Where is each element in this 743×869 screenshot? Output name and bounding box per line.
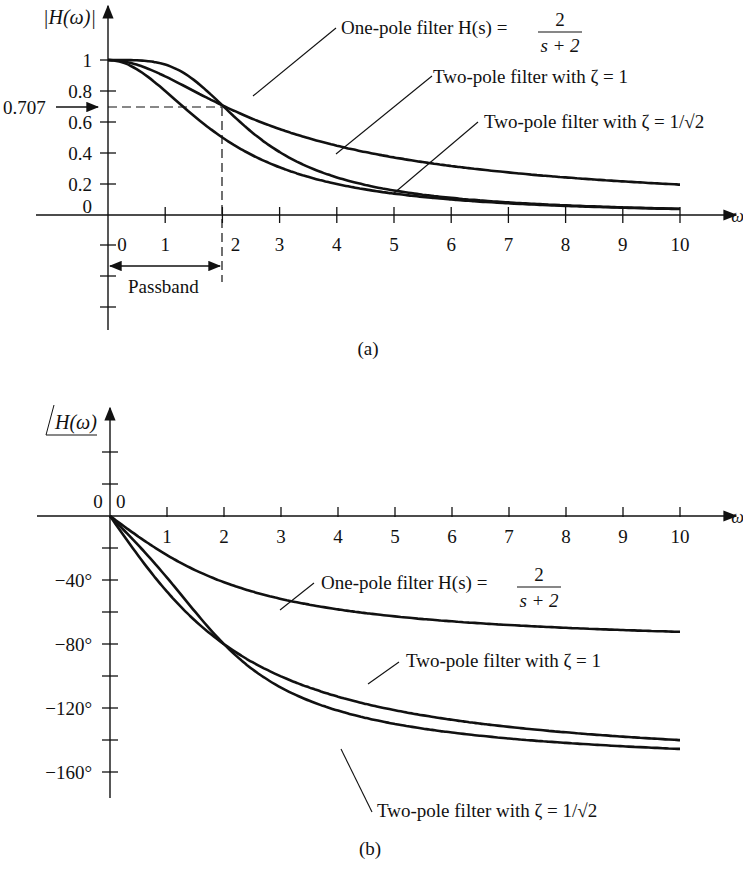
x-tick-label: 4 bbox=[333, 526, 343, 547]
y-tick-labels-a: 00.20.40.60.81 bbox=[68, 50, 92, 217]
y-tick-label: −120° bbox=[45, 698, 92, 719]
y-axis-label-a: |H(ω)| bbox=[43, 6, 96, 29]
series-label-a-3: Two-pole filter with ζ = 1/√2 bbox=[484, 111, 704, 132]
x-tick-label: 4 bbox=[332, 234, 342, 255]
x-tick-label: 1 bbox=[160, 234, 170, 255]
x-tick-label: 3 bbox=[275, 234, 285, 255]
cutoff-marker: 0.707 bbox=[3, 97, 222, 282]
x-axis-label-b: ω bbox=[731, 507, 743, 527]
x-axis-label-a: ω bbox=[731, 206, 743, 226]
x-tick-label: 3 bbox=[276, 526, 286, 547]
x-tick-labels-b: 012345678910 bbox=[93, 491, 689, 547]
y-tick-label: −80° bbox=[55, 634, 92, 655]
y-tick-label: 0.2 bbox=[68, 174, 92, 195]
y-tick-label: −160° bbox=[45, 762, 92, 783]
y-tick-label: 0.4 bbox=[68, 143, 92, 164]
svg-text:One-pole filter H(s) =: One-pole filter H(s) = bbox=[341, 17, 507, 39]
y-tick-label: 1 bbox=[83, 50, 93, 71]
x-tick-label: 6 bbox=[447, 526, 457, 547]
x-tick-label: 1 bbox=[162, 526, 172, 547]
x-tick-label: 0 bbox=[117, 234, 127, 255]
y-axis-label-b: H(ω) bbox=[46, 405, 97, 435]
y-tick-label: −40° bbox=[55, 570, 92, 591]
passband-annotation: Passband bbox=[110, 266, 220, 297]
series-label-a-1: One-pole filter H(s) = bbox=[341, 17, 507, 39]
cutoff-value-label: 0.707 bbox=[3, 97, 46, 118]
series-label-b-1: One-pole filter H(s) = bbox=[321, 572, 487, 594]
magnitude-chart: 012345678910 00.20.40.60.81 |H(ω)| ω 0.7… bbox=[0, 0, 743, 869]
series-label-a-2: Two-pole filter with ζ = 1 bbox=[433, 66, 628, 87]
x-tick-label: 7 bbox=[504, 526, 514, 547]
frac-num-b: 2 bbox=[534, 564, 544, 585]
curve-3 bbox=[110, 516, 680, 749]
x-tick-labels-a: 012345678910 bbox=[117, 234, 689, 255]
frac-den-b: s + 2 bbox=[519, 590, 559, 611]
chart-b-axes bbox=[37, 408, 736, 798]
legend-a: One-pole filter H(s) = 2 s + 2 Two-pole … bbox=[253, 9, 704, 194]
svg-text:H(ω): H(ω) bbox=[54, 411, 97, 434]
x-tick-label: 8 bbox=[561, 234, 571, 255]
passband-label: Passband bbox=[128, 276, 199, 297]
origin-label-b: 0 bbox=[116, 491, 126, 512]
svg-text:One-pole filter H(s) =: One-pole filter H(s) = bbox=[321, 572, 487, 594]
y-tick-label: 0.8 bbox=[68, 81, 92, 102]
x-tick-label: 7 bbox=[504, 234, 514, 255]
y-tick-labels-b: −40°−80°−120°−160° bbox=[45, 570, 92, 783]
x-tick-label: 9 bbox=[618, 526, 628, 547]
x-tick-label: 2 bbox=[231, 234, 241, 255]
x-tick-label: 10 bbox=[671, 526, 690, 547]
caption-a: (a) bbox=[357, 338, 378, 360]
x-tick-label: 10 bbox=[671, 234, 690, 255]
series-label-b-3: Two-pole filter with ζ = 1/√2 bbox=[377, 800, 597, 821]
phase-curves bbox=[110, 516, 680, 749]
frac-num-a: 2 bbox=[555, 9, 565, 30]
x-tick-label: 8 bbox=[561, 526, 571, 547]
x-tick-label: 5 bbox=[390, 526, 400, 547]
y-tick-label: 0.6 bbox=[68, 112, 92, 133]
x-tick-label: 5 bbox=[389, 234, 399, 255]
caption-b: (b) bbox=[359, 838, 381, 860]
x-tick-label: 2 bbox=[219, 526, 229, 547]
x-tick-label: 6 bbox=[446, 234, 456, 255]
x-tick-label: 9 bbox=[618, 234, 628, 255]
y-tick-label: 0 bbox=[83, 196, 93, 217]
x-tick-label: 0 bbox=[93, 491, 103, 512]
frac-den-a: s + 2 bbox=[540, 35, 580, 56]
series-label-b-2: Two-pole filter with ζ = 1 bbox=[406, 650, 601, 671]
